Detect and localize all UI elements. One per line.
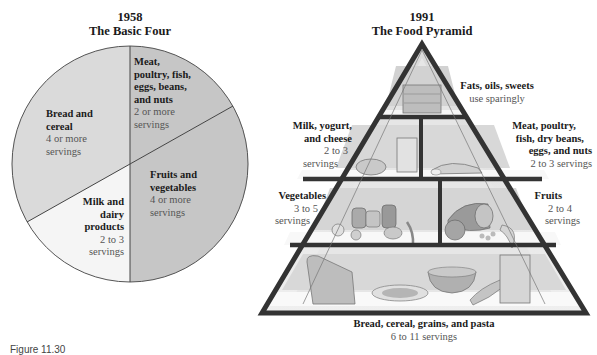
- pie-label-fruits: Fruits and vegetables 4 or more servings: [150, 169, 197, 219]
- pyramid-label-fruits: Fruits 2 to 4 servings: [510, 190, 580, 228]
- pie-label-bread: Bread and cereal 4 or more servings: [46, 108, 93, 158]
- cereal-box-icon: [500, 255, 530, 303]
- pie-label-milk: Milk and dairy products 2 to 3 servings: [60, 196, 124, 259]
- figure-caption: Figure 11.30: [10, 344, 65, 355]
- pepper-icon: [352, 208, 366, 228]
- pyramid-label-bread: Bread, cereal, grains, and pasta 6 to 11…: [304, 318, 544, 343]
- apple-icon: [445, 220, 465, 240]
- cheese-icon: [356, 159, 386, 175]
- pyramid-label-fats: Fats, oils, sweets use sparingly: [442, 80, 552, 105]
- pie-label-meat: Meat, poultry, fish, eggs, beans, and nu…: [134, 56, 191, 131]
- fats-box-icon: [403, 85, 441, 113]
- milk-carton-icon: [397, 138, 417, 172]
- pyramid-label-vegetables: Vegetables 3 to 5 servings: [262, 190, 326, 228]
- pyramid-label-meat: Meat, poultry, fish, dry beans, eggs, an…: [470, 120, 592, 170]
- pyramid-label-milk: Milk, yogurt, and cheese 2 to 3 servings: [262, 120, 352, 170]
